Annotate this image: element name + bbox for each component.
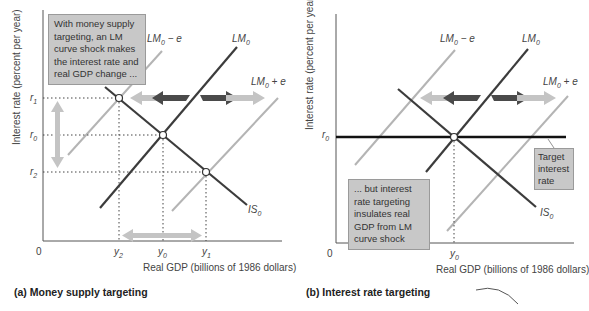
is0-curve xyxy=(105,87,247,205)
tick-y0: y0 xyxy=(158,246,167,259)
interest-rate-change-arrow xyxy=(51,101,64,168)
label-lm0-plus-e: LM0 + e xyxy=(251,76,286,89)
tick-y0: y0 xyxy=(450,248,459,261)
annotation-money-supply: With money supply targeting, an LM curve… xyxy=(48,14,146,85)
y-axis-label: Interest rate (percent per year) xyxy=(11,9,22,145)
target-leader-line xyxy=(548,139,554,148)
annotation-interest-rate-targeting: ... but interest rate targeting insulate… xyxy=(348,179,430,250)
label-lm0: LM0 xyxy=(232,33,250,46)
label-is0: IS0 xyxy=(540,207,553,220)
tick-r1: r1 xyxy=(30,92,37,105)
label-lm0-plus-e: LM0 + e xyxy=(543,76,578,89)
equilibrium-point-r2 xyxy=(203,169,210,176)
page-curl-mark xyxy=(476,288,518,304)
label-is0: IS0 xyxy=(248,204,261,217)
caption-b: (b) Interest rate targeting xyxy=(306,286,430,298)
panel-interest-rate-targeting: Interest rate (percent per year) LM0 − e… xyxy=(290,0,587,311)
lm-minus-e-curve xyxy=(355,50,455,165)
tick-r0: r0 xyxy=(30,129,37,142)
tick-r0: r0 xyxy=(322,129,329,142)
origin-label: 0 xyxy=(36,246,42,257)
label-lm0-minus-e: LM0 − e xyxy=(147,33,182,46)
x-axis-label: Real GDP (billions of 1986 dollars) xyxy=(143,262,296,273)
guide-lines xyxy=(43,98,206,241)
x-axis-label: Real GDP (billions of 1986 dollars) xyxy=(436,264,589,275)
y-axis-label: Interest rate (percent per year) xyxy=(304,0,315,130)
tick-y2: y2 xyxy=(114,246,123,259)
tick-r2: r2 xyxy=(30,166,37,179)
lm0-curve xyxy=(426,49,528,172)
panel-money-supply-targeting: Interest rate (percent per year) With mo… xyxy=(0,0,295,311)
gdp-change-arrow xyxy=(122,229,202,242)
origin-label: 0 xyxy=(327,248,333,259)
equilibrium-point xyxy=(451,134,458,141)
caption-a: (a) Money supply targeting xyxy=(14,286,148,298)
equilibrium-point-r0 xyxy=(160,132,167,139)
label-lm0-minus-e: LM0 − e xyxy=(440,33,475,46)
annotation-target-interest-rate: Target interest rate xyxy=(534,148,574,190)
tick-y1: y1 xyxy=(202,246,211,259)
equilibrium-point-r1 xyxy=(116,95,123,102)
label-lm0: LM0 xyxy=(522,33,540,46)
